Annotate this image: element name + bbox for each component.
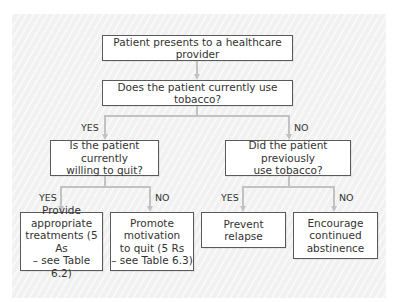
label-qno-no: NO [339,193,354,203]
outcome-encourage-abstinence-box: Encourage continued abstinence [293,212,378,259]
question-previous-tobacco-text: Did the patient previously use tobacco? [226,139,350,177]
question-willing-to-quit-text: Is the patient currently willing to quit… [51,139,158,177]
question-current-tobacco-text: Does the patient currently use tobacco? [103,81,292,106]
connector-qyes-yes-drop [60,186,62,206]
connector-q1-horizontal [104,115,290,117]
outcome-prevent-relapse-text: Prevent relapse [223,218,263,243]
question-current-tobacco-box: Does the patient currently use tobacco? [102,80,293,106]
outcome-promote-motivation-box: Promote motivation to quit (5 Rs – see T… [110,212,194,271]
start-box-text: Patient presents to a healthcare provide… [103,36,292,61]
label-qno-yes: YES [221,193,239,203]
start-box: Patient presents to a healthcare provide… [102,35,293,61]
label-qyes-no: NO [155,193,170,203]
connector-q1-no-drop [288,115,290,134]
outcome-provide-treatments-box: Provide appropriate treatments (5 As – s… [20,212,103,271]
label-q1-yes: YES [81,123,99,133]
connector-qno-no-drop [333,186,335,206]
connector-qyes-horizontal [60,186,151,188]
label-qyes-yes: YES [39,193,57,203]
connector-q1-yes-drop [104,115,106,134]
outcome-provide-treatments-text: Provide appropriate treatments (5 As – s… [21,204,102,279]
outcome-prevent-relapse-box: Prevent relapse [201,212,286,248]
connector-qyes-no-drop [149,186,151,206]
label-q1-no: NO [294,123,309,133]
question-willing-to-quit-box: Is the patient currently willing to quit… [50,140,159,176]
connector-qno-yes-drop [242,186,244,206]
connector-qno-horizontal [242,186,335,188]
outcome-promote-motivation-text: Promote motivation to quit (5 Rs – see T… [111,217,193,267]
outcome-encourage-abstinence-text: Encourage continued abstinence [307,217,365,255]
connector-start-to-q1 [196,61,198,74]
question-previous-tobacco-box: Did the patient previously use tobacco? [225,140,351,176]
